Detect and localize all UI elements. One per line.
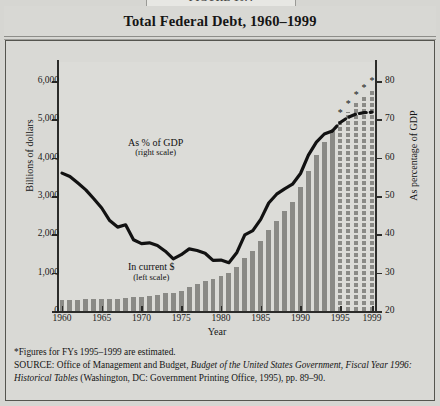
x-tick-label: 1970 (121, 313, 161, 323)
x-tick (62, 306, 64, 311)
x-tick-label: 1990 (280, 313, 320, 323)
source-imprint: (Washington, DC: Government Printing Off… (78, 373, 325, 383)
x-tick-label: 1960 (42, 313, 82, 323)
right-tick (377, 119, 382, 121)
right-tick (377, 81, 382, 83)
annotation-primary-text: In current $ (128, 261, 175, 273)
right-tick (377, 158, 382, 160)
left-tick-label: 1,000 (17, 267, 59, 277)
x-tick (221, 306, 223, 311)
x-tick-label: 1980 (201, 313, 241, 323)
x-tick (340, 306, 342, 311)
x-axis-title: Year (157, 326, 277, 337)
x-tick (181, 306, 183, 311)
figure-container: FIGURE 10.4 Total Federal Debt, 1960–199… (0, 0, 440, 406)
estimate-footnote: *Figures for FYs 1995–1999 are estimated… (14, 346, 430, 358)
right-tick (377, 273, 382, 275)
right-axis-line (375, 60, 377, 313)
annotation-gdp-label: As % of GDP(right scale) (128, 137, 183, 158)
x-tick (261, 306, 263, 311)
x-tick-label: 1975 (161, 313, 201, 323)
left-axis-title: Billions of dollars (24, 81, 35, 231)
right-tick (377, 234, 382, 236)
right-tick (377, 196, 382, 198)
x-tick-label: 1999 (352, 313, 392, 323)
annotation-secondary-text: (left scale) (128, 273, 175, 283)
gdp-line-series (58, 62, 376, 311)
x-tick (102, 306, 104, 311)
source-label: SOURCE (14, 359, 52, 370)
right-axis-title: As percentage of GDP (408, 81, 419, 231)
x-tick (372, 306, 374, 311)
gdp-line-estimated (332, 112, 372, 131)
x-tick-label: 1985 (241, 313, 281, 323)
x-tick-label: 1965 (82, 313, 122, 323)
x-tick (300, 306, 302, 311)
footnote-block: *Figures for FYs 1995–1999 are estimated… (14, 346, 430, 385)
plot-area: ***** As % of GDP(right scale)In current… (58, 62, 376, 311)
source-publisher: Office of Management and Budget, (57, 360, 191, 370)
source-note: SOURCE: Office of Management and Budget,… (14, 359, 430, 384)
annotation-secondary-text: (right scale) (128, 148, 183, 158)
gdp-line-actual (62, 131, 332, 263)
annotation-dollars-label: In current $(left scale) (128, 261, 175, 282)
x-tick (141, 306, 143, 311)
right-tick-label: 30 (385, 267, 415, 277)
